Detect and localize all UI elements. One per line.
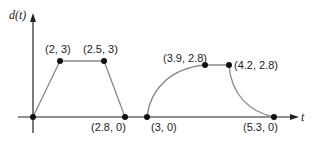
label-p3: (2.8, 0) bbox=[91, 121, 126, 133]
y-axis-label: d(t) bbox=[9, 8, 26, 22]
label-p5: (3.9, 2.8) bbox=[163, 52, 207, 64]
point-2.5-3 bbox=[101, 58, 107, 64]
y-axis-arrow-icon bbox=[30, 13, 36, 22]
label-p6: (4.2, 2.8) bbox=[234, 59, 278, 71]
label-p1: (2, 3) bbox=[45, 43, 71, 55]
x-axis-arrow-icon bbox=[290, 114, 299, 120]
curve-path bbox=[147, 65, 274, 117]
label-p7: (5.3, 0) bbox=[243, 121, 278, 133]
point-5.3-0 bbox=[271, 114, 277, 120]
point-4.2-2.8 bbox=[226, 62, 232, 68]
point-2.8-0 bbox=[122, 114, 128, 120]
point-2-3 bbox=[57, 58, 63, 64]
trapezoid-path bbox=[33, 61, 125, 117]
point-3-0 bbox=[144, 114, 150, 120]
graph: d(t) t (2, 3) (2.5, 3) (2.8, 0) (3, 0) (… bbox=[0, 0, 313, 141]
label-p4: (3, 0) bbox=[151, 121, 177, 133]
label-p2: (2.5, 3) bbox=[83, 43, 118, 55]
x-axis-label: t bbox=[301, 110, 305, 124]
point-origin bbox=[30, 114, 36, 120]
